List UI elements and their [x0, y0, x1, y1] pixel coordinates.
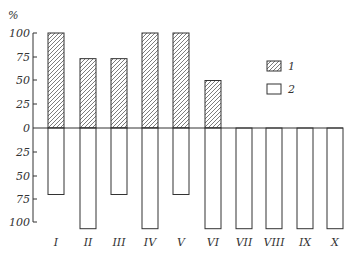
category-label-V: V: [177, 236, 186, 249]
category-label-III: III: [111, 236, 126, 249]
y-tick-75: 75: [16, 51, 30, 64]
bar-series1-I: [48, 33, 64, 128]
bar-series2-II: [80, 128, 96, 229]
bar-series2-I: [48, 128, 64, 195]
category-label-I: I: [53, 236, 59, 249]
bar-series2-VI: [205, 128, 221, 229]
bar-series1-VI: [205, 81, 221, 129]
bar-series2-X: [327, 128, 343, 229]
legend: 1 2: [267, 60, 295, 96]
bar-series1-II: [80, 59, 96, 128]
bar-series2-IV: [142, 128, 158, 229]
y-tick-100: 100: [9, 27, 30, 40]
category-label-VIII: VIII: [264, 236, 286, 249]
bar-chart: % 100 75 50 25 0 25 50 75 100 IIIIIIIVVV…: [0, 0, 362, 258]
y-tick-labels: 100 75 50 25 0 25 50 75 100: [9, 27, 30, 229]
y-tick-neg25: 25: [15, 146, 30, 159]
legend-swatch-empty: [267, 84, 281, 94]
legend-swatch-hatched: [267, 61, 281, 71]
y-tick-25: 25: [15, 98, 30, 111]
y-tick-neg100: 100: [9, 216, 30, 229]
category-label-II: II: [83, 236, 93, 249]
category-label-VI: VI: [207, 236, 220, 249]
bar-series2-IX: [297, 128, 313, 229]
bar-series2-VIII: [266, 128, 282, 229]
legend-label-1: 1: [288, 60, 295, 73]
category-label-VII: VII: [236, 236, 253, 249]
y-tick-0: 0: [23, 122, 30, 135]
y-tick-neg50: 50: [16, 170, 30, 183]
legend-label-2: 2: [287, 83, 295, 96]
category-label-X: X: [330, 236, 340, 249]
bar-series1-III: [111, 59, 127, 128]
category-labels: IIIIIIIVVVIVIIVIIIIXX: [53, 236, 340, 249]
bars: [48, 33, 343, 229]
category-label-IX: IX: [298, 236, 312, 249]
bar-series2-III: [111, 128, 127, 195]
y-tick-neg75: 75: [16, 193, 30, 206]
bar-series2-VII: [236, 128, 252, 229]
category-label-IV: IV: [143, 236, 157, 249]
y-unit-label: %: [8, 9, 18, 22]
bar-series1-IV: [142, 33, 158, 128]
bar-series1-V: [173, 33, 189, 128]
chart-container: % 100 75 50 25 0 25 50 75 100 IIIIIIIVVV…: [0, 0, 362, 258]
y-tick-50: 50: [16, 74, 30, 87]
bar-series2-V: [173, 128, 189, 195]
